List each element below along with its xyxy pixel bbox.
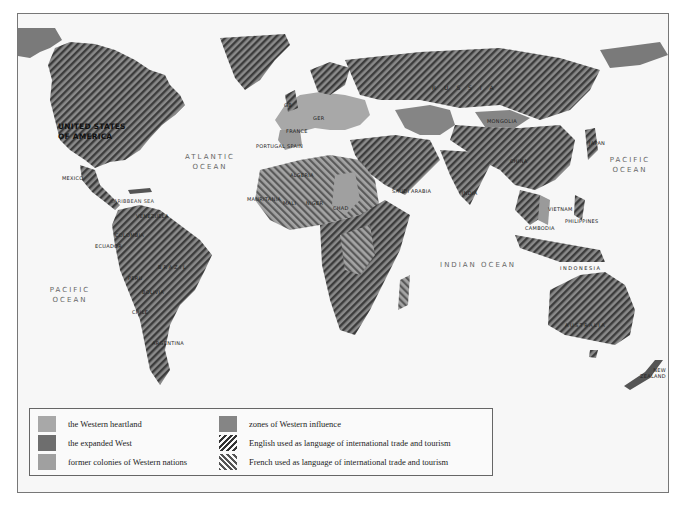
label-venezuela: VENEZUELA: [136, 213, 169, 219]
label-chile: CHILE: [132, 309, 148, 315]
legend-item-expanded-west: the expanded West: [38, 435, 132, 451]
swatch-western-heartland: [38, 416, 56, 432]
label-argentina: ARGENTINA: [152, 340, 184, 346]
label-chad: CHAD: [333, 205, 349, 211]
label-pacific-ocean-east: PACIFICOCEAN: [600, 155, 660, 175]
label-russia: R U S S I A: [432, 84, 497, 91]
map-legend: the Western heartland the expanded West …: [29, 408, 493, 476]
label-mauritania: MAURITANIA: [247, 196, 281, 202]
swatch-former-colonies: [38, 454, 56, 470]
label-new-zealand: NEWZEALAND: [640, 367, 666, 379]
greenland: [220, 34, 290, 90]
label-niger: NIGER: [306, 200, 323, 206]
legend-item-zones-influence: zones of Western influence: [219, 416, 341, 432]
label-usa: UNITED STATESOF AMERICA: [58, 122, 126, 142]
label-bolivia: BOLIVIA: [142, 289, 164, 295]
legend-item-former-colonies: former colonies of Western nations: [38, 454, 187, 470]
swatch-expanded-west: [38, 435, 56, 451]
legend-item-english: English used as language of internationa…: [219, 435, 451, 451]
label-saudi-arabia: SAUDI ARABIA: [392, 188, 431, 194]
label-cambodia: CAMBODIA: [525, 225, 555, 231]
swatch-english-hatch: [219, 435, 237, 451]
label-australia: AUSTRALIA: [565, 322, 606, 328]
label-ecuador: ECUADOR: [95, 243, 122, 249]
north-america: [48, 42, 185, 168]
label-china: CHINA: [510, 158, 527, 164]
chukotka: [600, 42, 668, 68]
label-peru: PERU: [128, 275, 143, 281]
label-portugal: PORTUGAL: [256, 143, 285, 149]
label-brazil: BRAZIL: [158, 264, 188, 270]
madagascar: [398, 275, 410, 310]
label-india: INDIA: [462, 190, 477, 196]
label-mali: MALI: [283, 200, 296, 206]
indonesia: [515, 235, 605, 262]
label-spain: SPAIN: [287, 143, 303, 149]
label-indian-ocean: INDIAN OCEAN: [428, 260, 528, 270]
label-algeria: ALGERIA: [290, 172, 314, 178]
swatch-french-hatch: [219, 454, 237, 470]
label-mexico: MEXICO: [62, 175, 84, 181]
label-france: FRANCE: [286, 128, 308, 134]
central-asia: [395, 105, 455, 135]
scandinavia: [310, 62, 350, 95]
legend-item-french: French used as language of international…: [219, 454, 448, 470]
label-gb: GB: [284, 102, 292, 108]
label-atlantic-ocean: ATLANTICOCEAN: [175, 152, 245, 172]
legend-item-western-heartland: the Western heartland: [38, 416, 142, 432]
label-pacific-ocean-west: PACIFICOCEAN: [35, 285, 105, 305]
label-mongolia: MONGOLIA: [487, 118, 517, 124]
label-ger: GER: [313, 115, 324, 121]
label-philippines: PHILIPPINES: [565, 218, 598, 224]
label-vietnam: VIETNAM: [548, 206, 573, 212]
label-indonesia: INDONESIA: [560, 265, 601, 271]
philippines: [574, 195, 585, 220]
label-japan: JAPAN: [589, 140, 605, 146]
label-colombia: COLOMBIA: [115, 232, 144, 238]
australia: [548, 272, 635, 345]
label-caribbean-sea: CARIBBEAN SEA: [110, 198, 154, 204]
swatch-zones-influence: [219, 416, 237, 432]
